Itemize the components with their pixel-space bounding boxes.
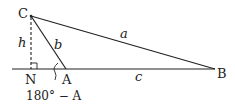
label-h: h bbox=[18, 35, 26, 50]
diagram-svg: C h b a N A c B 180° − A bbox=[0, 0, 235, 105]
angle-label-text: 180° − A bbox=[26, 89, 82, 103]
label-b-vertex: B bbox=[217, 66, 227, 81]
right-angle-marker bbox=[31, 63, 37, 69]
vertex-dot-c bbox=[30, 15, 33, 18]
label-a-vertex: A bbox=[61, 72, 72, 87]
exterior-angle-arc bbox=[54, 63, 58, 80]
triangle-diagram: C h b a N A c B 180° − A bbox=[0, 0, 235, 105]
label-n: N bbox=[25, 72, 36, 87]
label-b: b bbox=[54, 37, 62, 52]
label-angle: 180° − A bbox=[26, 89, 82, 103]
label-c-vertex: C bbox=[18, 6, 28, 21]
label-a: a bbox=[120, 26, 128, 41]
label-c-side: c bbox=[135, 69, 143, 84]
